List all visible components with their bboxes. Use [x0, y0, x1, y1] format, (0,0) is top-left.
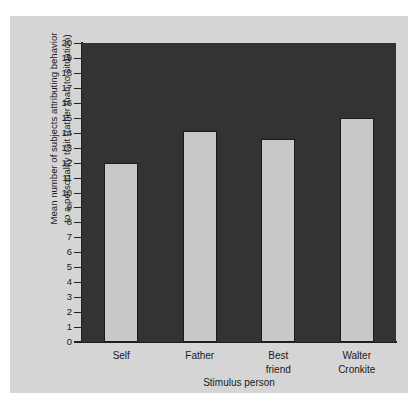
y-axis-tick — [74, 163, 81, 164]
y-axis-tick — [74, 58, 81, 59]
x-axis-tick-label: Self — [81, 349, 161, 363]
y-axis-tick — [74, 297, 81, 298]
y-axis-tick — [74, 43, 81, 44]
y-axis-tick — [74, 88, 81, 89]
y-axis-tick-label: 3 — [46, 292, 72, 302]
y-axis-tick — [74, 118, 81, 119]
y-axis-tick — [74, 193, 81, 194]
y-axis-tick — [74, 267, 81, 268]
plot-area — [82, 43, 396, 342]
y-axis-tick — [74, 103, 81, 104]
y-axis-title: Mean number of subjects attributing beha… — [48, 0, 73, 259]
x-axis-tick-label: Best friend — [238, 349, 318, 377]
y-axis-tick — [74, 222, 81, 223]
y-axis-tick — [74, 342, 81, 343]
y-axis-tick — [74, 73, 81, 74]
y-axis-tick — [74, 312, 81, 313]
bar — [261, 139, 295, 342]
y-axis-tick — [74, 148, 81, 149]
y-axis-tick — [74, 237, 81, 238]
x-axis-title: Stimulus person — [82, 377, 396, 388]
y-axis-tick-label: 2 — [46, 307, 72, 317]
y-axis-tick-label: 4 — [46, 277, 72, 287]
y-axis-tick-label: 0 — [46, 337, 72, 347]
y-axis-tick — [74, 282, 81, 283]
y-axis-tick — [74, 178, 81, 179]
bar — [340, 118, 374, 342]
bar — [183, 131, 217, 342]
y-axis-tick — [74, 133, 81, 134]
x-axis-tick-label: Father — [160, 349, 240, 363]
y-axis-tick — [74, 327, 81, 328]
y-axis-tick-label: 5 — [46, 262, 72, 272]
figure-panel: 01234567891011121314151617181920 Mean nu… — [10, 16, 408, 393]
bar — [104, 163, 138, 342]
x-axis-tick-label: Walter Cronkite — [317, 349, 397, 377]
y-axis-tick — [74, 207, 81, 208]
y-axis-tick-label: 1 — [46, 322, 72, 332]
y-axis-tick — [74, 252, 81, 253]
